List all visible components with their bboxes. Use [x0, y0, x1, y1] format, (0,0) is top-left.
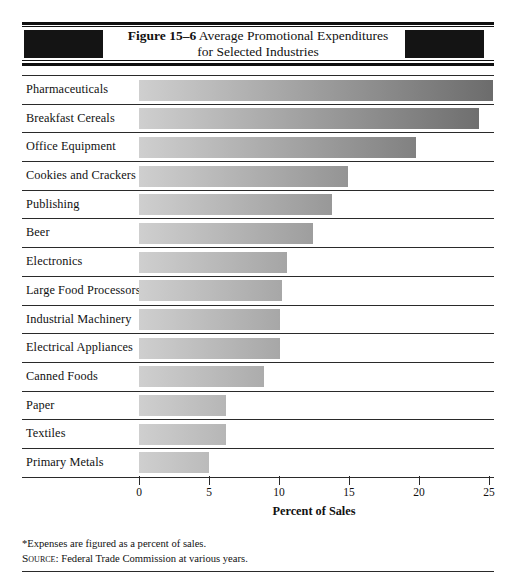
- bar-track: [139, 395, 489, 416]
- bar-rows: PharmaceuticalsBreakfast CerealsOffice E…: [0, 75, 516, 477]
- bar-category-label: Industrial Machinery: [26, 312, 131, 327]
- bar-row: Office Equipment: [0, 132, 516, 161]
- bar-category-label: Cookies and Crackers: [26, 168, 136, 183]
- title-block-left: [24, 30, 103, 58]
- bar-category-label: Electronics: [26, 254, 82, 269]
- bar-row: Canned Foods: [0, 362, 516, 391]
- bar: [139, 338, 280, 359]
- x-axis-title: Percent of Sales: [139, 504, 489, 519]
- figure-number: Figure 15–6: [128, 28, 196, 43]
- bar-row: Electronics: [0, 247, 516, 276]
- bar-track: [139, 194, 489, 215]
- bar: [139, 424, 226, 445]
- row-separator: [22, 104, 494, 105]
- bar: [139, 366, 264, 387]
- row-separator: [22, 190, 494, 191]
- bar-row: Industrial Machinery: [0, 305, 516, 334]
- footnote: *Expenses are figured as a percent of sa…: [22, 537, 494, 551]
- bar-category-label: Office Equipment: [26, 139, 116, 154]
- bar: [139, 108, 479, 129]
- x-axis-tick-label: 25: [474, 486, 504, 498]
- bar: [139, 280, 282, 301]
- row-separator: [22, 305, 494, 306]
- bar-category-label: Large Food Processors: [26, 283, 141, 298]
- row-separator: [22, 276, 494, 277]
- bar-track: [139, 280, 489, 301]
- bar: [139, 452, 209, 473]
- x-axis-tick-label: 15: [334, 486, 364, 498]
- bar: [139, 252, 287, 273]
- notes-rule: [22, 571, 494, 572]
- bar-track: [139, 166, 489, 187]
- row-separator: [22, 161, 494, 162]
- row-separator: [22, 247, 494, 248]
- source-label: Source:: [22, 552, 59, 564]
- bar-track: [139, 338, 489, 359]
- x-axis-tick: [489, 476, 490, 485]
- row-separator: [22, 218, 494, 219]
- x-axis-tick: [139, 476, 140, 485]
- bar-track: [139, 137, 489, 158]
- bar-category-label: Textiles: [26, 426, 66, 441]
- row-separator: [22, 75, 494, 76]
- bar-track: [139, 424, 489, 445]
- row-separator: [22, 391, 494, 392]
- bar-row: Textiles: [0, 419, 516, 448]
- bar-row: Paper: [0, 391, 516, 420]
- x-axis-tick-label: 5: [194, 486, 224, 498]
- title-rule-bottom: [22, 63, 494, 66]
- x-axis-tick-label: 20: [404, 486, 434, 498]
- x-axis-tick: [279, 476, 280, 485]
- title-rule-top: [22, 22, 494, 25]
- figure-container: Figure 15–6 Average Promotional Expendit…: [0, 0, 516, 586]
- row-separator: [22, 419, 494, 420]
- plot-area: PharmaceuticalsBreakfast CerealsOffice E…: [0, 75, 516, 465]
- figure-notes: *Expenses are figured as a percent of sa…: [22, 537, 494, 566]
- x-axis-tick: [419, 476, 420, 485]
- bar: [139, 166, 348, 187]
- bar-track: [139, 309, 489, 330]
- bar-category-label: Electrical Appliances: [26, 340, 133, 355]
- bar-row: Large Food Processors: [0, 276, 516, 305]
- source-note: Source: Federal Trade Commission at vari…: [22, 551, 494, 566]
- bar-row: Electrical Appliances: [0, 333, 516, 362]
- bar-row: Breakfast Cereals: [0, 104, 516, 133]
- bar-track: [139, 108, 489, 129]
- bar-track: [139, 366, 489, 387]
- row-separator: [22, 132, 494, 133]
- bar-category-label: Breakfast Cereals: [26, 111, 115, 126]
- bar-category-label: Paper: [26, 398, 55, 413]
- bar: [139, 194, 332, 215]
- bar: [139, 309, 280, 330]
- row-separator: [22, 362, 494, 363]
- bar: [139, 395, 226, 416]
- bar: [139, 80, 493, 101]
- x-axis-tick: [349, 476, 350, 485]
- source-text: Federal Trade Commission at various year…: [59, 553, 248, 564]
- figure-title-band: Figure 15–6 Average Promotional Expendit…: [22, 22, 494, 67]
- x-axis: Percent of Sales 0510152025: [0, 476, 516, 526]
- bar-row: Cookies and Crackers: [0, 161, 516, 190]
- figure-title-line1: Average Promotional Expenditures: [199, 28, 388, 43]
- x-axis-tick-label: 0: [124, 486, 154, 498]
- figure-title-line2: for Selected Industries: [112, 44, 404, 60]
- x-axis-tick: [209, 476, 210, 485]
- bar-row: Beer: [0, 218, 516, 247]
- row-separator: [22, 448, 494, 449]
- bar-category-label: Canned Foods: [26, 369, 98, 384]
- bar-row: Pharmaceuticals: [0, 75, 516, 104]
- bar-track: [139, 223, 489, 244]
- bar-track: [139, 252, 489, 273]
- bar-row: Publishing: [0, 190, 516, 219]
- x-axis-tick-label: 10: [264, 486, 294, 498]
- bar: [139, 223, 313, 244]
- bar-track: [139, 452, 489, 473]
- bar-category-label: Primary Metals: [26, 455, 104, 470]
- bar-category-label: Beer: [26, 225, 50, 240]
- title-block-right: [405, 30, 484, 58]
- bar-track: [139, 80, 489, 101]
- figure-title: Figure 15–6 Average Promotional Expendit…: [112, 28, 404, 60]
- bar-row: Primary Metals: [0, 448, 516, 477]
- bar: [139, 137, 416, 158]
- bar-category-label: Publishing: [26, 197, 80, 212]
